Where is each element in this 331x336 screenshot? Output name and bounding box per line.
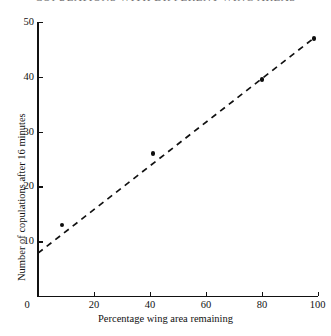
data-point [60, 223, 65, 228]
data-point [260, 77, 265, 82]
data-layer [0, 0, 331, 336]
data-point [151, 151, 156, 156]
x-axis-title: Percentage wing area remaining [0, 313, 331, 324]
regression-line [38, 38, 314, 253]
chart-figure: COPULATIONS WITH DIFFERENT WING AREAS 50… [0, 0, 331, 336]
data-point [312, 36, 317, 41]
y-axis-title: Number of copulations after 16 minutes [16, 113, 27, 281]
